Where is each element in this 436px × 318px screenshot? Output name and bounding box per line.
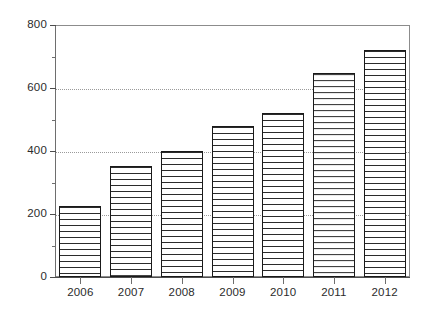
x-tick-2006 [80,277,81,284]
bar[interactable] [364,50,406,277]
x-axis-tick-label: 2012 [371,287,397,299]
x-axis-tick-label: 2006 [67,287,93,299]
bar[interactable] [212,126,254,277]
y-axis-tick-label: 600 [27,82,47,94]
x-tick-2010 [283,277,284,284]
x-tick-2009 [233,277,234,284]
y-axis [55,25,56,277]
x-axis-tick-label: 2008 [169,287,195,299]
y-minor-tick-300 [52,183,56,184]
y-tick-400 [50,151,56,152]
x-tick-2008 [182,277,183,284]
bar[interactable] [161,151,203,277]
x-axis-tick-label: 2011 [321,287,347,299]
y-axis-tick-label: 400 [27,145,47,157]
y-axis-tick-label: 0 [40,271,47,283]
x-axis-tick-label: 2010 [270,287,296,299]
y-axis-labels: 0200400600800 [0,0,47,318]
y-tick-600 [50,88,56,89]
x-tick-2011 [334,277,335,284]
gridline-600 [56,89,409,90]
bar[interactable] [313,73,355,277]
x-tick-2007 [131,277,132,284]
y-tick-200 [50,214,56,215]
x-tick-2012 [385,277,386,284]
bar[interactable] [110,166,152,277]
y-tick-800 [50,25,56,26]
y-axis-tick-label: 200 [27,208,47,220]
x-axis-tick-label: 2009 [219,287,245,299]
bar[interactable] [262,113,304,277]
y-minor-tick-100 [52,246,56,247]
y-axis-tick-label: 800 [27,19,47,31]
bar-chart: 0200400600800 20062007200820092010201120… [0,0,436,318]
y-minor-tick-700 [52,57,56,58]
bar[interactable] [59,206,101,277]
x-axis-tick-label: 2007 [118,287,144,299]
y-minor-tick-500 [52,120,56,121]
